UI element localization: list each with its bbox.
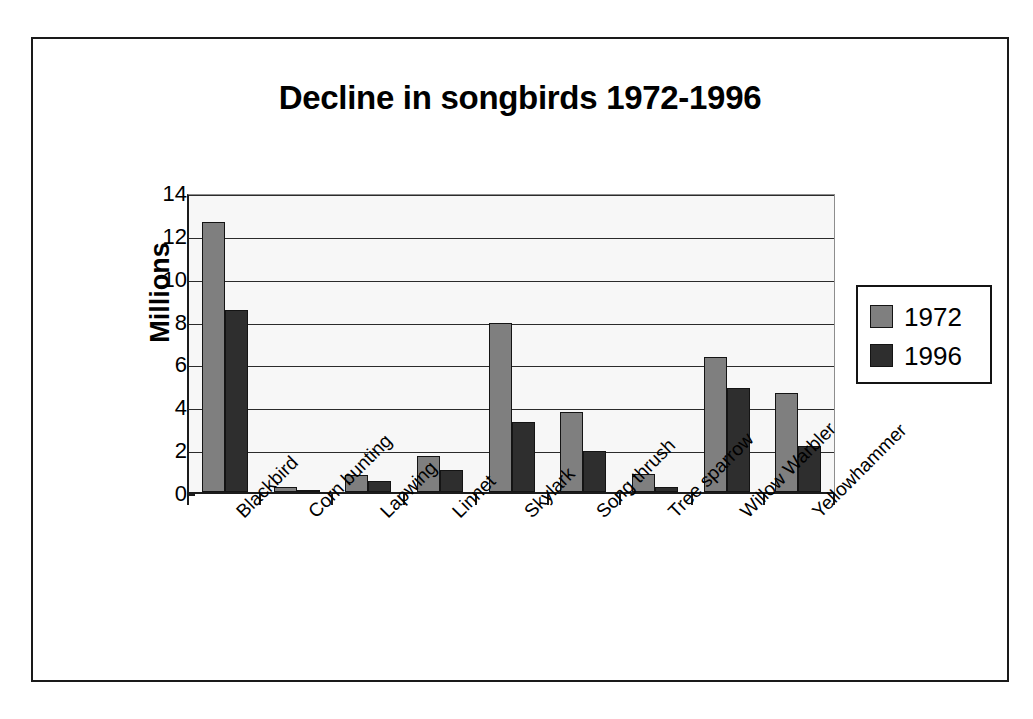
- legend-swatch: [870, 344, 893, 367]
- y-tick-label: 8: [145, 310, 187, 336]
- bar-1996: [583, 451, 606, 492]
- bar-1996: [297, 490, 320, 493]
- y-tick-label: 6: [145, 352, 187, 378]
- x-tick-mark: [187, 494, 189, 505]
- legend-entry: 1972: [870, 297, 990, 336]
- bar-1996: [440, 470, 463, 493]
- y-tick-label: 12: [145, 224, 187, 250]
- y-tick-label: 2: [145, 438, 187, 464]
- bar-1996: [368, 481, 391, 492]
- chart-title: Decline in songbirds 1972-1996: [33, 79, 1007, 117]
- legend-entry: 1996: [870, 336, 990, 375]
- legend-label: 1996: [904, 343, 962, 369]
- bar-group: [404, 195, 476, 492]
- chart-figure-frame: Decline in songbirds 1972-1996 Millions …: [31, 37, 1009, 682]
- bar-group: [476, 195, 548, 492]
- bar-1972: [202, 222, 225, 492]
- legend: 19721996: [856, 285, 992, 384]
- bar-1996: [512, 422, 535, 492]
- bar-group: [189, 195, 261, 492]
- y-tick-label: 4: [145, 395, 187, 421]
- y-tick-label: 14: [145, 181, 187, 207]
- x-axis-labels: BlackbirdCorn buntingLapwingLinnetSkylar…: [187, 507, 835, 627]
- bar-1972: [489, 323, 512, 492]
- y-tick-label: 10: [145, 267, 187, 293]
- y-tick-label: 0: [145, 481, 187, 507]
- bar-group: [261, 195, 333, 492]
- bar-1996: [225, 310, 248, 492]
- legend-label: 1972: [904, 304, 962, 330]
- y-axis-ticks: 02468101214: [133, 194, 187, 494]
- bar-1996: [655, 487, 678, 492]
- bar-group: [547, 195, 619, 492]
- legend-swatch: [870, 305, 893, 328]
